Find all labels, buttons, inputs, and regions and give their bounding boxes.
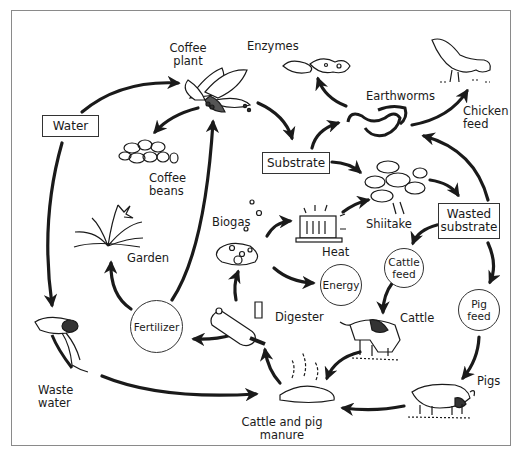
arrow-biogas-to-energy	[274, 268, 313, 283]
arrow-biogas-to-heat	[267, 221, 290, 236]
box-substrate: Substrate	[262, 152, 330, 174]
arrow-digester-to-fertilizer	[194, 335, 232, 339]
biogas-illustration	[216, 200, 261, 265]
label-waste-water: Waste water	[38, 384, 73, 410]
label-cattle: Cattle	[400, 312, 434, 325]
label-garden: Garden	[127, 252, 169, 265]
arrow-fertilizer-to-coffee-plant	[172, 122, 213, 300]
arrow-earthworms-to-enzymes	[318, 79, 346, 106]
arrow-fertilizer-to-garden	[111, 263, 131, 309]
arrow-substrate-to-shiitake	[332, 162, 360, 172]
coffee-plant-illustration	[185, 68, 250, 112]
pig-illustration	[408, 384, 475, 418]
label-earthworms: Earthworms	[366, 90, 435, 103]
circle-pig-feed: Pig feed	[458, 289, 500, 331]
coffee-beans-illustration	[119, 140, 178, 163]
shiitake-illustration	[365, 161, 427, 214]
waste-water-illustration	[35, 317, 88, 372]
label-pigs: Pigs	[477, 375, 500, 388]
arrow-coffee-plant-to-beans	[155, 108, 198, 132]
label-coffee-beans: Coffee beans	[149, 172, 186, 198]
arrow-wasted-substrate-to-pig-feed	[488, 243, 494, 282]
label-digester: Digester	[275, 311, 324, 324]
label-biogas: Biogas	[212, 216, 250, 229]
earthworms-illustration	[348, 106, 406, 135]
arrow-substrate-to-earthworms	[312, 123, 338, 148]
arrow-pig-feed-to-pigs	[463, 337, 479, 378]
label-enzymes: Enzymes	[247, 40, 299, 53]
label-chicken-feed: Chicken feed	[463, 105, 508, 131]
arrow-pigs-to-manure	[343, 406, 404, 410]
arrow-coffee-plant-to-substrate	[258, 103, 292, 138]
label-shiitake: Shiitake	[366, 218, 412, 231]
arrow-shiitake-to-wasted-substrate	[430, 180, 458, 195]
circle-energy: Energy	[320, 264, 362, 306]
label-heat: Heat	[322, 246, 349, 259]
arrow-waste-water-to-manure	[102, 376, 256, 395]
arrow-digester-to-biogas	[235, 272, 238, 300]
heater-illustration	[296, 205, 346, 242]
arrow-water-to-waste-water	[48, 143, 62, 305]
circle-cattle-feed: Cattle feed	[384, 248, 424, 288]
arrow-heat-to-shiitake	[343, 200, 368, 212]
label-manure: Cattle and pig manure	[232, 416, 332, 442]
label-coffee-plant: Coffee plant	[163, 42, 213, 68]
arrow-water-to-coffee-plant	[82, 83, 178, 112]
arrow-manure-to-digester	[265, 350, 280, 383]
arrow-cattle-to-manure	[327, 352, 360, 378]
chicken-illustration	[432, 39, 490, 82]
enzymes-illustration	[283, 59, 350, 73]
box-wasted-substrate: Wasted substrate	[438, 203, 500, 239]
arrow-cattle-feed-to-cattle	[383, 282, 393, 312]
circle-fertilizer: Fertilizer	[130, 300, 183, 353]
box-water: Water	[42, 115, 99, 137]
arrow-wasted-substrate-to-cattle-feed	[413, 225, 437, 243]
garden-illustration	[74, 205, 143, 247]
